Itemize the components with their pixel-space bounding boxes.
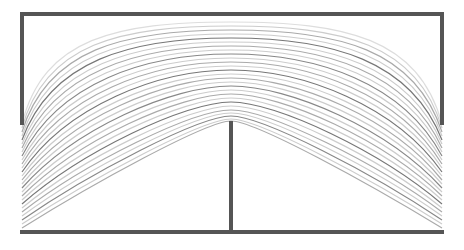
streamline-diagram xyxy=(0,0,464,250)
streamline xyxy=(22,30,442,132)
walls-group xyxy=(22,14,442,232)
